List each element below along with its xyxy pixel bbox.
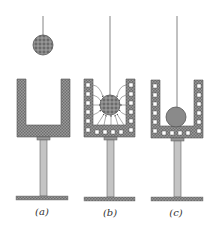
panel-a [16, 16, 70, 200]
insulating-stand [40, 140, 47, 196]
neutral-ball [166, 107, 186, 127]
metal-cup [17, 79, 70, 137]
stand-collar [37, 137, 50, 140]
stand-collar [171, 138, 184, 141]
base [16, 196, 68, 200]
base [151, 197, 203, 201]
panel-b [84, 16, 135, 201]
stand-collar [104, 137, 117, 140]
insulating-stand [174, 141, 181, 197]
panel-label-c: (c) [169, 207, 182, 218]
induction-diagram [0, 0, 214, 230]
panel-label-b: (b) [103, 207, 117, 218]
charged-ball [33, 35, 53, 55]
panel-c [151, 16, 203, 201]
charged-ball [100, 95, 120, 115]
panel-label-a: (a) [35, 206, 49, 217]
base [84, 197, 135, 201]
insulating-stand [107, 140, 114, 197]
